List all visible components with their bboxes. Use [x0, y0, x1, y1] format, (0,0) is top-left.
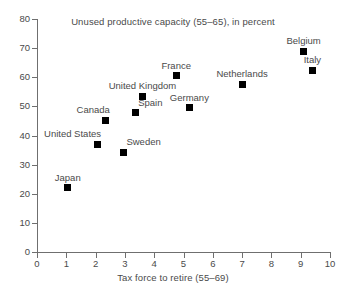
- y-tick-60: [32, 77, 37, 78]
- y-tick-label-40: 40: [4, 131, 30, 141]
- scatter-chart: Unused productive capacity (55–65), in p…: [0, 0, 346, 291]
- data-point-united-kingdom[interactable]: [139, 93, 146, 100]
- y-tick-30: [32, 165, 37, 166]
- x-axis-title: Tax force to retire (55–69): [0, 272, 346, 283]
- data-point-label-united-kingdom: United Kingdom: [109, 81, 177, 91]
- data-point-label-belgium: Belgium: [286, 36, 320, 46]
- data-point-canada[interactable]: [102, 117, 109, 124]
- x-tick-label-2: 2: [86, 259, 106, 269]
- x-tick-label-3: 3: [115, 259, 135, 269]
- y-axis-line: [37, 19, 38, 253]
- data-point-france[interactable]: [173, 72, 180, 79]
- y-tick-label-80: 80: [4, 14, 30, 24]
- y-tick-label-20: 20: [4, 189, 30, 199]
- y-tick-80: [32, 19, 37, 20]
- x-tick-label-1: 1: [56, 259, 76, 269]
- x-tick-label-8: 8: [261, 259, 281, 269]
- data-point-label-germany: Germany: [170, 93, 209, 103]
- y-tick-label-70: 70: [4, 43, 30, 53]
- data-point-label-netherlands: Netherlands: [216, 69, 267, 79]
- y-tick-label-30: 30: [4, 160, 30, 170]
- data-point-label-canada: Canada: [77, 105, 110, 115]
- x-tick-label-10: 10: [320, 259, 340, 269]
- data-point-spain[interactable]: [132, 109, 139, 116]
- y-tick-10: [32, 223, 37, 224]
- y-tick-70: [32, 48, 37, 49]
- x-tick-label-5: 5: [174, 259, 194, 269]
- x-tick-label-0: 0: [27, 259, 47, 269]
- y-tick-20: [32, 194, 37, 195]
- data-point-japan[interactable]: [64, 184, 71, 191]
- data-point-germany[interactable]: [186, 104, 193, 111]
- data-point-united-states[interactable]: [94, 141, 101, 148]
- data-point-sweden[interactable]: [120, 149, 127, 156]
- data-point-italy[interactable]: [309, 67, 316, 74]
- x-tick-label-6: 6: [203, 259, 223, 269]
- data-point-label-france: France: [161, 61, 191, 71]
- x-tick-label-4: 4: [144, 259, 164, 269]
- x-tick-label-7: 7: [232, 259, 252, 269]
- y-tick-label-0: 0: [4, 247, 30, 257]
- data-point-label-sweden: Sweden: [126, 137, 160, 147]
- data-point-netherlands[interactable]: [239, 81, 246, 88]
- data-point-label-italy: Italy: [304, 55, 321, 65]
- y-tick-label-10: 10: [4, 218, 30, 228]
- y-tick-label-60: 60: [4, 72, 30, 82]
- chart-title: Unused productive capacity (55–65), in p…: [0, 16, 346, 27]
- y-tick-40: [32, 136, 37, 137]
- data-point-label-united-states: United States: [44, 129, 101, 139]
- x-tick-label-9: 9: [291, 259, 311, 269]
- data-point-label-japan: Japan: [55, 173, 81, 183]
- y-tick-label-50: 50: [4, 101, 30, 111]
- y-tick-50: [32, 106, 37, 107]
